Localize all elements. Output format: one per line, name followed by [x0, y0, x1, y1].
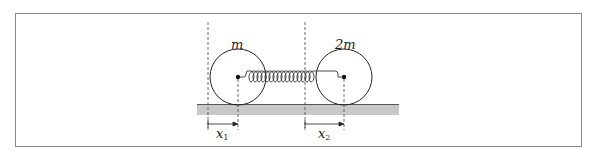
spring-mass-diagram: m 2m x1 x2 — [0, 0, 596, 154]
spring — [238, 71, 344, 82]
x2-label: x2 — [318, 126, 330, 142]
mass-2m-label: 2m — [334, 37, 356, 52]
mass-m-label: m — [231, 37, 243, 52]
x1-label: x1 — [216, 126, 228, 142]
ground-surface — [197, 104, 399, 115]
